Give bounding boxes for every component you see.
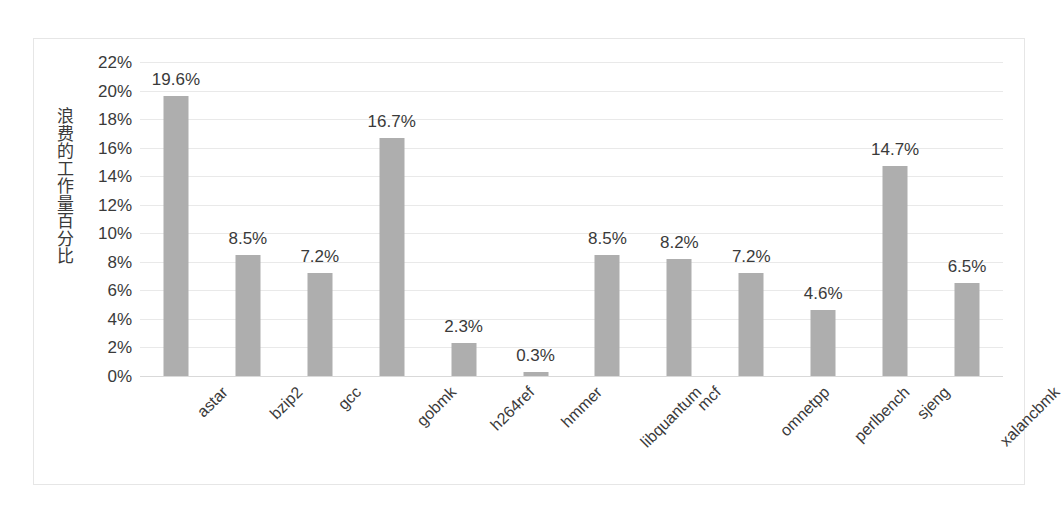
x-axis-category-label: gcc <box>335 384 364 413</box>
bar[interactable] <box>379 138 404 376</box>
x-axis-category-label: mcf <box>695 384 725 414</box>
x-axis-category-label: bzip2 <box>267 384 305 422</box>
x-axis-category-label: sjeng <box>914 384 952 422</box>
y-axis-title-char: 浪 <box>52 108 78 126</box>
x-axis-category-label: gobmk <box>414 384 459 429</box>
bar-group: 2.3% <box>428 62 500 376</box>
y-axis-tick-label: 10% <box>86 225 132 242</box>
bar-group: 8.5% <box>572 62 644 376</box>
bar[interactable] <box>739 273 764 376</box>
bar-group: 0.3% <box>500 62 572 376</box>
bar-value-label: 6.5% <box>948 258 987 275</box>
bar-group: 8.2% <box>643 62 715 376</box>
y-axis-title: 浪费的工作量百分比 <box>52 108 78 266</box>
y-axis-tick-label: 8% <box>86 253 132 270</box>
bar-value-label: 7.2% <box>300 248 339 265</box>
x-axis-category-label: astar <box>194 384 230 420</box>
bar-group: 6.5% <box>931 62 1003 376</box>
bar-value-label: 4.6% <box>804 285 843 302</box>
y-axis-title-char: 比 <box>52 248 78 266</box>
bar-value-label: 19.6% <box>152 71 200 88</box>
y-axis-title-char: 费 <box>52 126 78 144</box>
bar-group: 19.6% <box>140 62 212 376</box>
y-axis-title-char: 作 <box>52 178 78 196</box>
bar-value-label: 14.7% <box>871 141 919 158</box>
y-axis-tick-label: 22% <box>86 54 132 71</box>
bar[interactable] <box>811 310 836 376</box>
x-axis-category-label: perlbench <box>852 384 913 445</box>
bar-group: 8.5% <box>212 62 284 376</box>
bar-value-label: 8.2% <box>660 234 699 251</box>
bar[interactable] <box>523 372 548 376</box>
y-axis-tick-label: 18% <box>86 111 132 128</box>
x-axis-category-label: libquantum <box>638 384 705 451</box>
y-axis-tick-label: 20% <box>86 82 132 99</box>
bar[interactable] <box>451 343 476 376</box>
y-axis-tick-label: 16% <box>86 139 132 156</box>
x-axis-category-label: h264ref <box>488 384 538 434</box>
bar-group: 14.7% <box>859 62 931 376</box>
x-axis-category-labels: astarbzip2gccgobmkh264refhmmerlibquantum… <box>140 384 1003 484</box>
y-axis-tick-label: 6% <box>86 282 132 299</box>
bar-group: 16.7% <box>356 62 428 376</box>
plot-area: 19.6%8.5%7.2%16.7%2.3%0.3%8.5%8.2%7.2%4.… <box>140 62 1003 376</box>
bar-value-label: 16.7% <box>368 113 416 130</box>
y-axis-title-char: 的 <box>52 143 78 161</box>
y-axis-tick-label: 2% <box>86 339 132 356</box>
bar[interactable] <box>595 255 620 376</box>
bar[interactable] <box>667 259 692 376</box>
y-axis-title-char: 分 <box>52 231 78 249</box>
y-axis-tick-label: 12% <box>86 196 132 213</box>
bar-value-label: 7.2% <box>732 248 771 265</box>
gridline <box>140 376 1003 377</box>
y-axis-tick-label: 4% <box>86 310 132 327</box>
bar[interactable] <box>235 255 260 376</box>
bar[interactable] <box>307 273 332 376</box>
bar-value-label: 2.3% <box>444 318 483 335</box>
y-axis-tick-label: 0% <box>86 368 132 385</box>
bar-group: 7.2% <box>715 62 787 376</box>
y-axis-tick-label: 14% <box>86 168 132 185</box>
x-axis-category-label: hmmer <box>558 384 605 431</box>
y-axis-title-char: 量 <box>52 196 78 214</box>
y-axis-tick-labels: 0%2%4%6%8%10%12%14%16%18%20%22% <box>86 62 132 376</box>
bar[interactable] <box>163 96 188 376</box>
bar-group: 7.2% <box>284 62 356 376</box>
bar-value-label: 8.5% <box>588 230 627 247</box>
x-axis-category-label: omnetpp <box>778 384 833 439</box>
bar-group: 4.6% <box>787 62 859 376</box>
y-axis-title-char: 百 <box>52 213 78 231</box>
y-axis-title-char: 工 <box>52 161 78 179</box>
bar-value-label: 8.5% <box>228 230 267 247</box>
bar-value-label: 0.3% <box>516 347 555 364</box>
bar[interactable] <box>883 166 908 376</box>
bar[interactable] <box>955 283 980 376</box>
